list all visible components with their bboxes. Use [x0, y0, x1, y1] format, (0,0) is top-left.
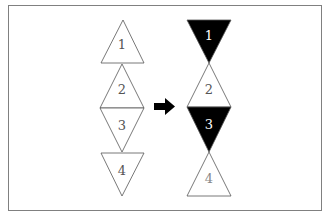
triangle-label: 1 [118, 37, 126, 52]
triangle-label: 4 [205, 171, 213, 186]
triangle-label: 1 [205, 28, 213, 43]
triangle-label: 4 [118, 163, 126, 178]
triangle-label: 2 [205, 82, 213, 97]
triangle-transformation-diagram: 1234 1234 [0, 0, 328, 217]
triangle-label: 3 [205, 117, 213, 132]
triangle-label: 2 [118, 82, 126, 97]
triangle-label: 3 [118, 118, 126, 133]
